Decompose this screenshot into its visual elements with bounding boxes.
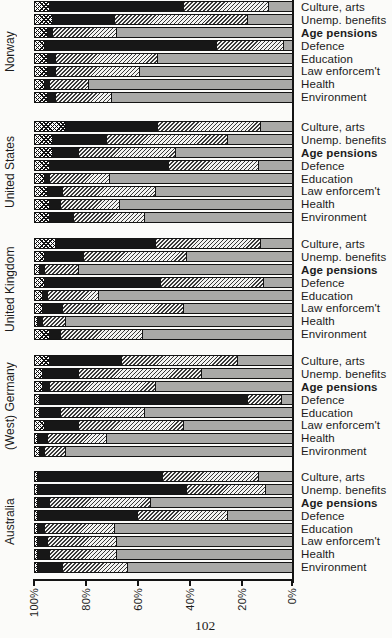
bar-segment-solid-gray bbox=[110, 174, 292, 183]
stacked-bar bbox=[34, 238, 293, 249]
axis-tick-label: 20% bbox=[236, 588, 248, 611]
axis-tick bbox=[241, 581, 243, 586]
stacked-bar bbox=[34, 446, 293, 457]
category-label: Education bbox=[301, 290, 391, 303]
bar-segment-crosshatch bbox=[35, 421, 45, 430]
bar-segment-crosshatch bbox=[35, 174, 45, 183]
stacked-bar bbox=[34, 523, 293, 534]
bar-segment-diagonal-hatch bbox=[48, 537, 117, 546]
bar-segment-solid-black bbox=[43, 369, 79, 378]
country-label: Norway bbox=[2, 1, 18, 103]
bar-segment-solid-black bbox=[38, 563, 64, 572]
bar-segment-solid-gray bbox=[238, 356, 292, 365]
bar-segment-solid-gray bbox=[228, 135, 292, 144]
bar-segment-diagonal-hatch bbox=[61, 330, 143, 339]
bar-segment-diagonal-hatch bbox=[63, 563, 127, 572]
bar-segment-solid-gray bbox=[282, 395, 292, 404]
bar-segment-solid-gray bbox=[107, 434, 292, 443]
axis-tick bbox=[85, 581, 87, 586]
bar-segment-solid-black bbox=[53, 15, 115, 24]
country-label: United States bbox=[2, 121, 18, 223]
bar-segment-diagonal-hatch bbox=[56, 93, 113, 102]
bar-segment-crosshatch bbox=[35, 161, 50, 170]
bar-segment-diagonal-hatch bbox=[50, 382, 155, 391]
bar-segment-diagonal-hatch bbox=[115, 15, 249, 24]
stacked-bar bbox=[34, 199, 293, 210]
bar-segment-solid-gray bbox=[266, 485, 292, 494]
stacked-bar bbox=[34, 407, 293, 418]
category-label: Defence bbox=[301, 277, 391, 290]
bar-segment-solid-gray bbox=[202, 369, 292, 378]
bar-segment-diagonal-hatch bbox=[217, 41, 284, 50]
bar-segment-diagonal-hatch bbox=[74, 213, 146, 222]
bar-segment-solid-gray bbox=[261, 122, 292, 131]
bar-segment-diagonal-hatch bbox=[50, 498, 150, 507]
bar-segment-diagonal-hatch bbox=[48, 291, 99, 300]
stacked-bar bbox=[34, 251, 293, 262]
bar-segment-diagonal-hatch bbox=[187, 485, 267, 494]
category-label: Defence bbox=[301, 394, 391, 407]
bar-segment-solid-gray bbox=[156, 382, 292, 391]
bar-segment-solid-black bbox=[50, 2, 184, 11]
category-label-column: Culture, artsUnemp. benefitsAge pensions… bbox=[301, 1, 391, 104]
bar-segment-solid-gray bbox=[115, 524, 292, 533]
stacked-bar bbox=[34, 355, 293, 366]
bar-segment-diagonal-hatch bbox=[63, 187, 156, 196]
bar-segment-diagonal-hatch bbox=[43, 317, 66, 326]
bar-segment-diagonal-hatch bbox=[45, 265, 78, 274]
bar-segment-solid-gray bbox=[89, 80, 292, 89]
bar-segment-crosshatch bbox=[35, 200, 50, 209]
category-label: Law enforcem't bbox=[301, 419, 391, 432]
bar-segment-crosshatch bbox=[35, 239, 56, 248]
category-label: Health bbox=[301, 548, 391, 561]
stacked-bar bbox=[34, 484, 293, 495]
category-label: Unemp. benefits bbox=[301, 14, 391, 27]
category-label: Health bbox=[301, 78, 391, 91]
bar-segment-diagonal-hatch bbox=[161, 278, 264, 287]
bar-segment-solid-gray bbox=[66, 317, 292, 326]
country-label: Australia bbox=[2, 471, 18, 573]
bar-segment-solid-gray bbox=[117, 537, 292, 546]
bar-segment-diagonal-hatch bbox=[45, 447, 66, 456]
bar-segment-solid-gray bbox=[228, 511, 292, 520]
stacked-bar bbox=[34, 1, 293, 12]
category-label: Age pensions bbox=[301, 497, 391, 510]
bar-segment-solid-black bbox=[38, 485, 187, 494]
bar-segment-solid-gray bbox=[284, 41, 292, 50]
bar-segment-solid-black bbox=[45, 252, 84, 261]
bar-segment-solid-gray bbox=[184, 421, 292, 430]
bar-segment-solid-gray bbox=[128, 563, 292, 572]
bar-segment-crosshatch bbox=[35, 80, 45, 89]
stacked-bar bbox=[34, 160, 293, 171]
category-label: Education bbox=[301, 407, 391, 420]
bar-segment-solid-gray bbox=[151, 498, 292, 507]
bar-segment-crosshatch bbox=[35, 122, 66, 131]
bar-segment-solid-black bbox=[38, 498, 51, 507]
category-label: Education bbox=[301, 173, 391, 186]
bar-segment-diagonal-hatch bbox=[53, 28, 117, 37]
stacked-bar bbox=[34, 92, 293, 103]
bar-segment-solid-gray bbox=[112, 93, 292, 102]
axis-tick bbox=[137, 581, 139, 586]
bar-segment-solid-gray bbox=[140, 67, 292, 76]
bar-segment-solid-black bbox=[45, 278, 161, 287]
bar-segment-solid-black bbox=[50, 200, 60, 209]
bar-segment-solid-black bbox=[38, 550, 51, 559]
bar-segment-diagonal-hatch bbox=[63, 304, 184, 313]
bar-segment-crosshatch bbox=[35, 135, 53, 144]
bar-segment-solid-gray bbox=[99, 291, 292, 300]
stacked-bar bbox=[34, 277, 293, 288]
bar-segment-solid-gray bbox=[79, 265, 292, 274]
bar-segment-solid-gray bbox=[120, 200, 292, 209]
category-label: Education bbox=[301, 53, 391, 66]
category-label: Environment bbox=[301, 91, 391, 104]
category-label: Law enforcem't bbox=[301, 535, 391, 548]
category-label: Age pensions bbox=[301, 27, 391, 40]
bar-segment-crosshatch bbox=[35, 15, 53, 24]
bar-segment-diagonal-hatch bbox=[169, 161, 259, 170]
bar-segment-diagonal-hatch bbox=[248, 395, 281, 404]
stacked-bar bbox=[34, 186, 293, 197]
stacked-bar bbox=[34, 290, 293, 301]
panel--west-germany bbox=[34, 355, 293, 459]
stacked-bar bbox=[34, 66, 293, 77]
